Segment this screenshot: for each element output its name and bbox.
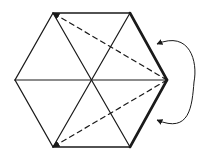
hexagon-diagram (0, 0, 203, 157)
hexagon-spokes (15, 13, 167, 147)
edge-left-to-top-left (15, 13, 53, 80)
edge-top-right-to-right (130, 13, 167, 80)
edge-bottom-left-to-left (15, 80, 53, 147)
edge-right-to-bottom-right (130, 80, 167, 147)
